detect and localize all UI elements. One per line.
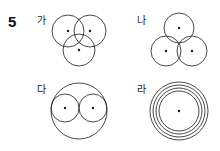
problem-number: 5 bbox=[8, 14, 16, 29]
center-dot-na-3 bbox=[191, 50, 193, 52]
item-label-da: 다 bbox=[37, 85, 46, 95]
figure-root: 5 가 나 다 라 bbox=[0, 0, 220, 151]
center-dot-da-left bbox=[64, 107, 66, 109]
center-dot-ga-3 bbox=[78, 49, 80, 51]
center-dot-ra bbox=[178, 110, 180, 112]
item-label-na: 나 bbox=[137, 16, 146, 26]
diagram-na bbox=[148, 12, 210, 72]
center-dot-da-right bbox=[92, 107, 94, 109]
center-dot-ga-2 bbox=[89, 30, 91, 32]
diagram-ra bbox=[148, 80, 210, 142]
center-dot-na-2 bbox=[165, 50, 167, 52]
item-label-ra: 라 bbox=[137, 85, 146, 95]
center-dot-ga-1 bbox=[67, 30, 69, 32]
diagram-ga bbox=[48, 12, 110, 72]
diagram-da bbox=[48, 80, 110, 142]
item-label-ga: 가 bbox=[37, 16, 46, 26]
center-dot-na-1 bbox=[178, 27, 180, 29]
